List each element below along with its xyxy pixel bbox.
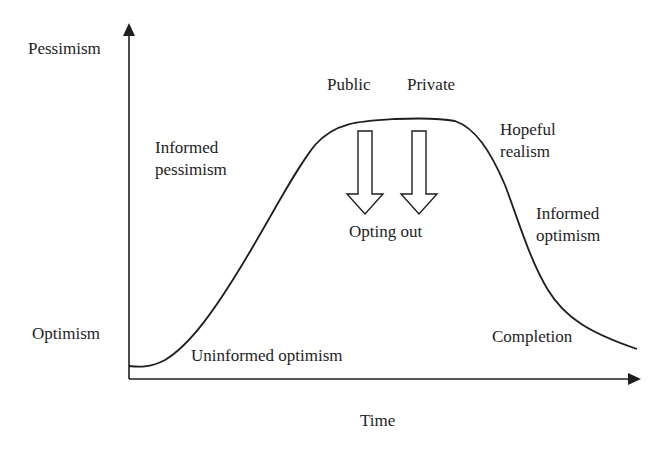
y-axis-bottom-label: Optimism: [32, 323, 100, 345]
y-axis: [123, 23, 135, 379]
y-axis-top-label: Pessimism: [28, 38, 101, 60]
stage-label-hopeful-realism: Hopeful realism: [500, 119, 556, 163]
opting-out-label: Opting out: [349, 221, 422, 243]
stage-label-informed-optimism: Informed optimism: [536, 203, 600, 247]
private-opt-out-arrow-icon: [401, 131, 437, 214]
x-axis: [129, 373, 641, 385]
stage-label-uninformed-optimism: Uninformed optimism: [191, 345, 343, 367]
public-opt-out-arrow-icon: [347, 131, 383, 214]
y-axis-arrowhead-icon: [123, 23, 135, 36]
stage-label-informed-pessimism: Informed pessimism: [155, 137, 227, 181]
stage-label-completion: Completion: [492, 326, 572, 348]
public-label: Public: [327, 74, 370, 96]
x-axis-label: Time: [360, 410, 395, 432]
private-label: Private: [407, 74, 455, 96]
emotional-cycle-of-change-diagram: Pessimism Optimism Time Uninformed optim…: [0, 0, 669, 449]
x-axis-arrowhead-icon: [628, 373, 641, 385]
